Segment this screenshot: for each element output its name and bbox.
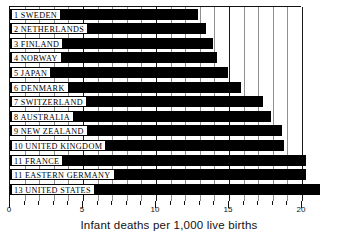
bar-row: 3 FINLAND (10, 38, 301, 49)
bar-label: 3 FINLAND (11, 38, 63, 49)
bar-row: 10 UNITED KINGDOM (10, 140, 301, 151)
x-tick-label: 10 (151, 205, 160, 214)
x-axis-title: Infant deaths per 1,000 live births (0, 219, 338, 231)
x-tick-label: 5 (80, 205, 84, 214)
bar-label: 4 NORWAY (11, 52, 62, 63)
bar-label: 11 EASTERN GERMANY (11, 169, 115, 180)
bar-row: 11 FRANCE (10, 155, 301, 166)
bar-row: 9 NEW ZEALAND (10, 125, 301, 136)
x-axis-tick-labels: 05101520 (0, 205, 338, 219)
bar-row: 7 SWITZERLAND (10, 96, 301, 107)
bar-row: 2 NETHERLANDS (10, 23, 301, 34)
x-tick-label: 15 (224, 205, 233, 214)
bar-row: 11 EASTERN GERMANY (10, 169, 301, 180)
infant-mortality-bar-chart: 1 SWEDEN2 NETHERLANDS3 FINLAND4 NORWAY5 … (0, 0, 338, 238)
bar-row: 13 UNITED STATES (10, 184, 301, 195)
x-tick-label: 0 (7, 205, 11, 214)
x-tick-label: 20 (297, 205, 306, 214)
bar-label: 11 FRANCE (11, 155, 63, 166)
bar-label: 1 SWEDEN (11, 9, 61, 20)
bar-row: 1 SWEDEN (10, 9, 301, 20)
bar-row: 5 JAPAN (10, 67, 301, 78)
bar-rows: 1 SWEDEN2 NETHERLANDS3 FINLAND4 NORWAY5 … (10, 7, 301, 201)
bar-label: 6 DENMARK (11, 82, 69, 93)
bar-label: 5 JAPAN (11, 67, 51, 78)
bar-label: 7 SWITZERLAND (11, 96, 87, 107)
bar-label: 13 UNITED STATES (11, 184, 95, 195)
bar-label: 8 AUSTRALIA (11, 111, 74, 122)
bar-row: 4 NORWAY (10, 52, 301, 63)
bar-row: 6 DENMARK (10, 82, 301, 93)
bar-row: 8 AUSTRALIA (10, 111, 301, 122)
bar-label: 10 UNITED KINGDOM (11, 140, 106, 151)
bar-label: 9 NEW ZEALAND (11, 125, 88, 136)
bar-label: 2 NETHERLANDS (11, 23, 88, 34)
plot-area: 1 SWEDEN2 NETHERLANDS3 FINLAND4 NORWAY5 … (9, 6, 301, 201)
